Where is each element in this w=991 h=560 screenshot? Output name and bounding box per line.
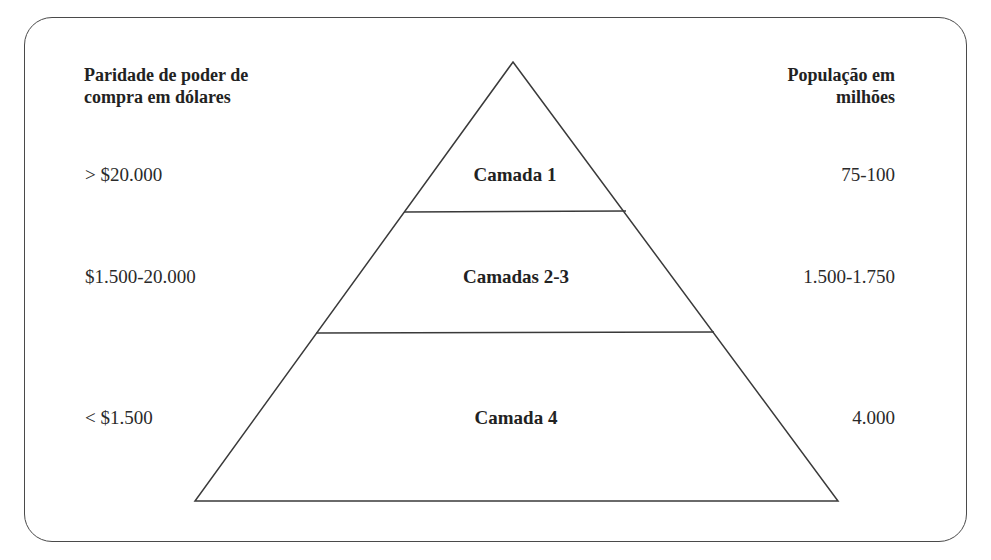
population-value-layer-3: 4.000 bbox=[852, 407, 895, 429]
layer-name-2: Camadas 2-3 bbox=[463, 266, 569, 288]
layer-name-1: Camada 1 bbox=[474, 164, 557, 186]
population-value-layer-1: 75-100 bbox=[841, 164, 895, 186]
layer-divider-2 bbox=[316, 332, 714, 333]
ppp-header-line1: Paridade de poder de bbox=[84, 64, 248, 86]
ppp-value-layer-1: > $20.000 bbox=[85, 164, 162, 186]
layer-name-3: Camada 4 bbox=[475, 407, 558, 429]
layer-divider-1 bbox=[404, 211, 626, 212]
ppp-header-line2: compra em dólares bbox=[84, 86, 248, 108]
ppp-value-layer-3: < $1.500 bbox=[85, 407, 153, 429]
population-header-line2: milhões bbox=[788, 86, 896, 108]
ppp-value-layer-2: $1.500-20.000 bbox=[85, 266, 196, 288]
population-header-line1: População em bbox=[788, 64, 896, 86]
ppp-column-header: Paridade de poder de compra em dólares bbox=[84, 64, 248, 108]
population-column-header: População em milhões bbox=[788, 64, 896, 108]
population-value-layer-2: 1.500-1.750 bbox=[803, 266, 895, 288]
